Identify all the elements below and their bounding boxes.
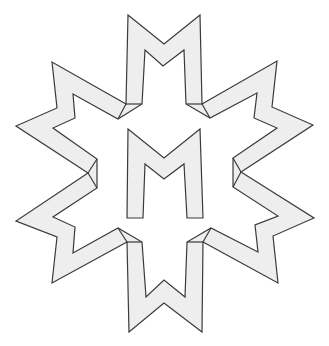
figure-canvas [0, 0, 329, 346]
m-star-figure [0, 0, 329, 346]
center-letter-m [127, 129, 203, 218]
